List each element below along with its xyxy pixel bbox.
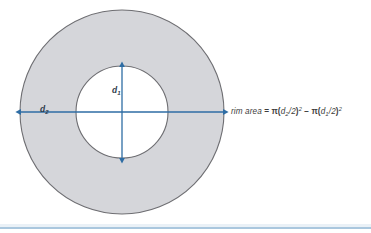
formula-lhs: rim area [231, 107, 262, 116]
rim-area-formula: rim area = π(d2/2)2 − π(d1/2)2 [231, 104, 342, 120]
formula-term2-exponent: 2 [339, 106, 342, 112]
figure-root: d1 d2 rim area = π(d2/2)2 − π(d1/2)2 [0, 0, 371, 233]
formula-minus: − [304, 107, 309, 116]
inner-diameter-label: d1 [112, 85, 120, 96]
formula-term1-exponent: 2 [299, 106, 302, 112]
outer-diameter-label: d2 [40, 104, 48, 115]
outer-diameter-label-subscript: 2 [45, 109, 48, 115]
bottom-rule [0, 227, 371, 229]
formula-term1-divisor: /2 [289, 107, 296, 116]
formula-equals: = [264, 107, 269, 116]
inner-diameter-label-subscript: 1 [117, 90, 120, 96]
formula-term2-divisor: /2 [329, 107, 336, 116]
